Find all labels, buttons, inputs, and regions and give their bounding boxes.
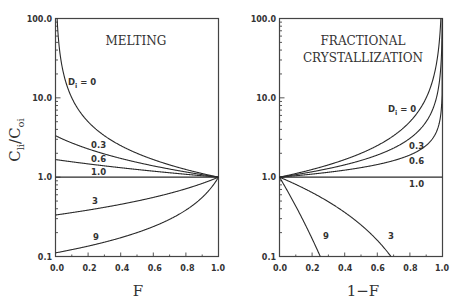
curve-d-9 (280, 177, 443, 280)
fc-x-axis-title: 1−F (347, 282, 380, 300)
x-tick-0-4: 0.4 (115, 264, 130, 273)
curve-d-3 (56, 177, 219, 215)
label-d9-fc: 9 (323, 231, 329, 241)
curve-d-3 (280, 177, 443, 280)
label-d0-melting: Di = 0 (68, 77, 96, 90)
fc-x-tick-0-8: 0.8 (403, 264, 418, 273)
fc-x-tick-0-2: 0.2 (306, 264, 320, 273)
label-d06-melting: 0.6 (91, 154, 106, 164)
label-d03-fc: 0.3 (409, 141, 424, 151)
label-d0-fc: Di = 0 (388, 104, 416, 117)
y-tick-0-1: 0.1 (38, 253, 53, 262)
fc-y-tick-10: 10.0 (256, 94, 276, 103)
fractional-crystallization-panel: 100.0 10.0 1.0 0.1 0.0 0.2 0.4 0.6 0.8 1… (251, 0, 450, 300)
figure: 100.0 10.0 1.0 0.1 0.0 0.2 0.4 0.6 0.8 1… (0, 0, 463, 304)
fc-x-tick-0-4: 0.4 (338, 264, 353, 273)
label-d3-fc: 3 (388, 231, 394, 241)
curve-d-03 (56, 136, 219, 177)
melting-panel: 100.0 10.0 1.0 0.1 0.0 0.2 0.4 0.6 0.8 1… (6, 0, 226, 300)
label-d3-melting: 3 (92, 196, 98, 206)
y-axis-title: Cli/Coi (6, 118, 26, 162)
svg-text:Cli/Coi: Cli/Coi (6, 118, 26, 162)
y-tick-1: 1.0 (38, 173, 53, 182)
fc-x-tick-1: 1.0 (435, 264, 450, 273)
label-d03-melting: 0.3 (91, 140, 106, 150)
label-d9-melting: 9 (93, 232, 99, 242)
label-d06-fc: 0.6 (409, 156, 424, 166)
fc-x-tick-0-6: 0.6 (371, 264, 386, 273)
y-tick-10: 10.0 (32, 94, 52, 103)
melting-plot-frame (56, 19, 219, 257)
x-tick-0-2: 0.2 (83, 264, 97, 273)
label-d1-melting: 1.0 (91, 167, 106, 177)
fc-y-tick-0-1: 0.1 (262, 253, 277, 262)
fc-y-tick-1: 1.0 (262, 173, 277, 182)
curve-d-Di0 (56, 0, 219, 177)
x-tick-0-8: 0.8 (180, 264, 195, 273)
x-tick-1: 1.0 (211, 264, 226, 273)
fc-title-line1: FRACTIONAL (321, 34, 406, 48)
melting-title: MELTING (106, 34, 167, 48)
x-tick-0-6: 0.6 (148, 264, 163, 273)
curve-d-9 (56, 177, 219, 253)
y-tick-100: 100.0 (27, 15, 53, 24)
melting-x-axis-title: F (133, 282, 143, 300)
x-tick-0: 0.0 (50, 264, 65, 273)
label-d1-fc: 1.0 (409, 179, 424, 189)
fc-y-tick-100: 100.0 (251, 15, 277, 24)
melting-axis-ticks (56, 22, 219, 256)
fc-title-line2: CRYSTALLIZATION (303, 51, 423, 65)
fc-x-tick-0: 0.0 (273, 264, 288, 273)
